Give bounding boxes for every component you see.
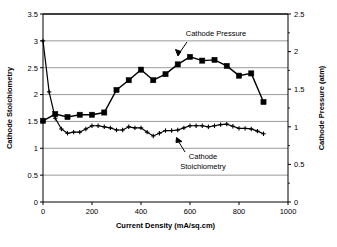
data-point-marker (249, 71, 254, 76)
data-point-marker (200, 58, 205, 63)
chart-container: 00.511.522.533.500.511.522.5020040060080… (0, 0, 337, 247)
series-annotations: Cathode PressureCathodeStoichiometry (176, 29, 247, 171)
grid-lines (43, 14, 288, 175)
y-tick-label-left: 2 (34, 90, 38, 99)
data-point-marker (114, 87, 119, 92)
data-point-marker (138, 67, 143, 72)
y-tick-label-left: 3 (34, 37, 38, 46)
x-tick-label: 1000 (280, 207, 297, 216)
axis-titles: Current Density (mA/sq.cm)Cathode Stoich… (5, 65, 326, 230)
data-point-marker (89, 112, 94, 117)
x-tick-label: 800 (233, 207, 246, 216)
annotation-cathode-stoichiometry-line2: Stoichiometry (180, 162, 226, 171)
series-line-cathode-pressure (43, 57, 264, 121)
y-tick-label-right: 0.5 (294, 160, 304, 169)
data-point-marker (102, 110, 107, 115)
y-tick-label-left: 1 (34, 144, 38, 153)
x-axis-title: Current Density (mA/sq.cm) (116, 221, 216, 230)
annotation-arrowhead-pressure (176, 50, 182, 57)
x-tick-label: 0 (41, 207, 45, 216)
axis-ticks (40, 14, 291, 205)
x-tick-label: 600 (184, 207, 197, 216)
annotation-cathode-pressure: Cathode Pressure (186, 29, 246, 38)
x-tick-label: 400 (135, 207, 148, 216)
data-point-marker (175, 62, 180, 67)
data-point-marker (187, 54, 192, 59)
data-point-marker (65, 114, 70, 119)
annotation-arrowhead-stoichiometry (176, 138, 182, 143)
data-point-marker (40, 118, 45, 123)
data-point-marker (224, 63, 229, 68)
x-tick-label: 200 (86, 207, 99, 216)
y-tick-label-left: 2.5 (28, 64, 38, 73)
y-tick-label-right: 2 (294, 47, 298, 56)
data-point-marker (261, 99, 266, 104)
annotation-cathode-stoichiometry-line1: Cathode (189, 152, 217, 161)
y-tick-label-left: 3.5 (28, 10, 38, 19)
y-tick-label-right: 1 (294, 123, 298, 132)
data-point-marker (212, 57, 217, 62)
y-tick-label-left: 0 (34, 198, 38, 207)
y-tick-label-right: 2.5 (294, 10, 304, 19)
axes (43, 14, 288, 202)
data-point-marker (151, 78, 156, 83)
chart-svg: 00.511.522.533.500.511.522.5020040060080… (0, 0, 337, 247)
y-axis-title-left: Cathode Stoichiometry (5, 66, 14, 149)
y-tick-label-right: 1.5 (294, 85, 304, 94)
y-tick-label-right: 0 (294, 198, 298, 207)
data-point-marker (236, 73, 241, 78)
y-tick-label-left: 1.5 (28, 117, 38, 126)
data-series (40, 39, 266, 138)
y-tick-label-left: 0.5 (28, 171, 38, 180)
data-point-marker (77, 112, 82, 117)
y-axis-title-right: Cathode Pressure (atm) (317, 65, 326, 150)
data-point-marker (126, 78, 131, 83)
data-point-marker (163, 72, 168, 77)
